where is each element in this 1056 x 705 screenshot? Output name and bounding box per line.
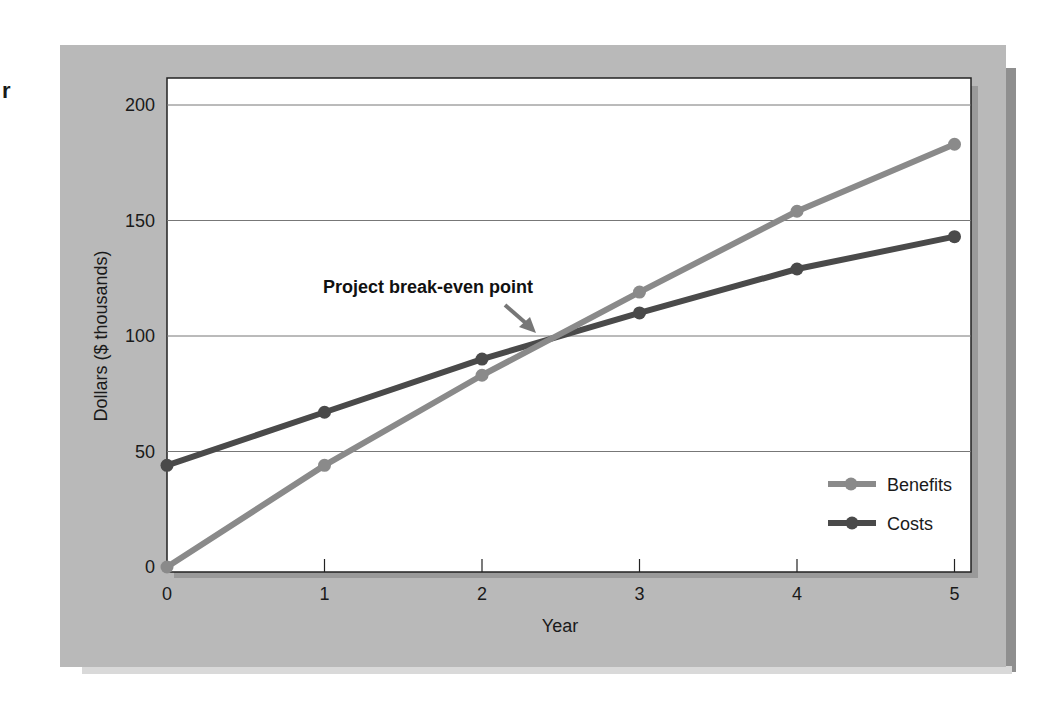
data-point-marker [476,353,489,366]
x-axis-title: Year [542,616,578,636]
y-axis-ticks: 050100150200 [125,95,155,577]
x-tick-label: 1 [319,584,329,604]
data-point-marker [791,263,804,276]
y-tick-label: 100 [125,326,155,346]
plot-area [167,78,971,572]
y-tick-label: 50 [135,442,155,462]
data-point-marker [161,459,174,472]
y-tick-label: 150 [125,211,155,231]
y-tick-label: 0 [145,557,155,577]
data-point-marker [161,561,174,574]
data-point-marker [948,138,961,151]
x-tick-label: 0 [162,584,172,604]
data-point-marker [791,205,804,218]
data-point-marker [476,369,489,382]
y-axis-title: Dollars ($ thousands) [91,250,111,421]
line-chart: 050100150200 012345 Dollars ($ thousands… [0,0,1056,705]
x-tick-label: 5 [949,584,959,604]
data-point-marker [318,406,331,419]
x-tick-label: 3 [634,584,644,604]
legend-label-costs: Costs [887,514,933,534]
data-point-marker [633,306,646,319]
data-point-marker [633,286,646,299]
legend-label-benefits: Benefits [887,475,952,495]
data-point-marker [948,230,961,243]
y-tick-label: 200 [125,95,155,115]
x-tick-label: 2 [477,584,487,604]
data-point-marker [318,459,331,472]
x-tick-label: 4 [792,584,802,604]
break-even-annotation: Project break-even point [323,277,533,297]
